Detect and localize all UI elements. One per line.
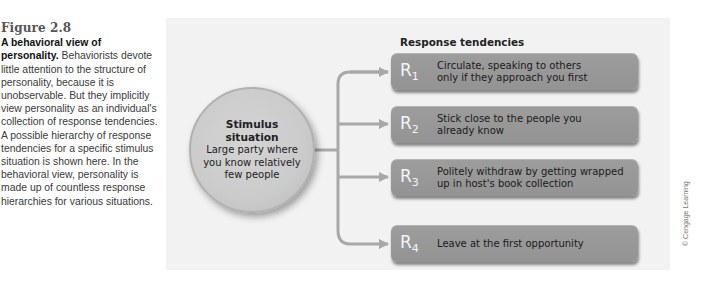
response-text: Stick close to the people you already kn… (431, 113, 582, 137)
stimulus-desc-line: Large party where (203, 144, 301, 157)
copyright-credit: © Cengage Learning (682, 181, 689, 246)
stimulus-desc-line: few people (203, 169, 301, 182)
response-text: Leave at the first opportunity (431, 238, 584, 250)
stimulus-title-line: Stimulus (225, 118, 278, 131)
stimulus-situation-circle: Stimulus situation Large party where you… (189, 87, 315, 213)
response-label: R3 (391, 168, 431, 188)
response-box-r2: R2 Stick close to the people you already… (391, 106, 638, 143)
response-text: Circulate, speaking to others only if th… (431, 60, 587, 84)
stimulus-description: Large party where you know relatively fe… (203, 144, 301, 182)
stimulus-desc-line: you know relatively (203, 157, 301, 170)
response-label: R2 (391, 115, 431, 135)
response-box-r3: R3 Politely withdraw by getting wrapped … (391, 159, 638, 196)
response-label: R4 (391, 234, 431, 254)
stimulus-title: Stimulus situation (225, 118, 278, 143)
response-box-r1: R1 Circulate, speaking to others only if… (391, 53, 638, 90)
response-tendencies-heading: Response tendencies (400, 36, 524, 48)
stimulus-title-line: situation (225, 131, 278, 144)
response-text: Politely withdraw by getting wrapped up … (431, 166, 624, 190)
response-box-r4: R4 Leave at the first opportunity (391, 225, 638, 262)
response-label: R1 (391, 62, 431, 82)
